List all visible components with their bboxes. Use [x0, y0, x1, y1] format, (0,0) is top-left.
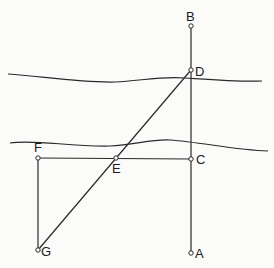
- point-D: [189, 68, 193, 72]
- label-E: E: [112, 161, 121, 176]
- label-G: G: [41, 244, 51, 259]
- label-C: C: [196, 152, 205, 167]
- label-F: F: [34, 140, 42, 155]
- point-G: [36, 248, 40, 252]
- label-B: B: [186, 9, 195, 24]
- label-A: A: [195, 246, 204, 261]
- point-C: [189, 157, 193, 161]
- lower-riverbank: [10, 140, 268, 151]
- upper-riverbank: [8, 74, 262, 82]
- point-B: [189, 24, 193, 28]
- point-A: [189, 251, 193, 255]
- river-width-diagram: B D C A F E G: [0, 0, 274, 268]
- point-F: [36, 156, 40, 160]
- label-D: D: [195, 64, 204, 79]
- point-E: [114, 156, 118, 160]
